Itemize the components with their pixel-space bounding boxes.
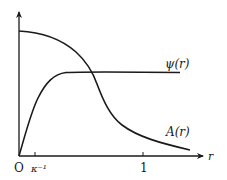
a-curve <box>19 31 190 150</box>
x-axis-label: r <box>208 150 214 163</box>
diagram-canvas: O κ⁻¹ 1 r ψ(r) A(r) <box>0 0 227 180</box>
kappa-inv-label: κ⁻¹ <box>30 163 47 174</box>
origin-label: O <box>14 161 24 175</box>
a-label: A(r) <box>165 125 190 139</box>
psi-curve <box>19 72 180 156</box>
psi-label: ψ(r) <box>165 57 190 71</box>
one-label: 1 <box>140 161 148 175</box>
